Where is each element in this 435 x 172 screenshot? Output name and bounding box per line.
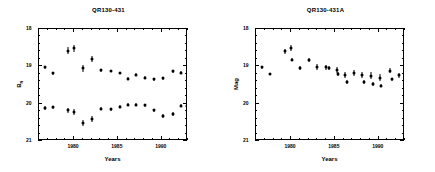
axis-tick [316,28,317,30]
axis-tick [47,138,48,140]
axis-tick [386,28,387,30]
axis-tick [255,95,257,96]
axis-tick [400,28,404,29]
yaxis-base-symbol: B [16,83,22,87]
axis-tick [402,50,404,51]
data-point [44,107,47,110]
axis-tick [334,136,335,140]
axis-tick [343,138,344,140]
axis-tick [255,50,257,51]
axis-tick [402,118,404,119]
data-point [152,109,155,112]
axis-tick [395,138,396,140]
data-point [290,47,293,50]
axis-tick [161,136,162,140]
data-point [127,77,130,80]
axis-tick [402,80,404,81]
axis-tick [38,73,40,74]
axis-tick [91,138,92,140]
axis-tick [360,138,361,140]
axis-tick-label: 18 [26,25,32,31]
data-point [135,103,138,106]
axis-tick [369,138,370,140]
axis-tick [273,28,274,30]
data-point [362,81,365,84]
data-point [81,67,84,70]
data-point [172,70,175,73]
axis-tick [316,138,317,140]
axis-tick [360,28,361,30]
axis-tick [169,28,170,30]
data-point [52,72,55,75]
data-point [179,104,182,107]
axis-tick [378,28,379,32]
axis-tick [185,43,187,44]
axis-tick [402,110,404,111]
data-point [118,72,121,75]
panel-left-plot-area [38,28,187,140]
data-point [378,76,381,79]
axis-tick [99,138,100,140]
axis-tick [73,136,74,140]
axis-tick [185,80,187,81]
data-point [44,66,47,69]
data-point [369,74,372,77]
axis-tick [255,35,257,36]
data-point [161,77,164,80]
data-point [344,73,347,76]
axis-tick [369,28,370,30]
axis-tick [255,58,257,59]
data-point [100,107,103,110]
axis-tick [187,138,188,140]
data-point [390,78,393,81]
axis-tick [82,28,83,30]
axis-tick [185,88,187,89]
axis-tick [38,103,42,104]
axis-tick [255,43,257,44]
axis-tick [64,138,65,140]
data-point [179,71,182,74]
data-point [152,78,155,81]
axis-tick-label: 20 [26,100,32,106]
axis-tick [152,138,153,140]
yaxis-subscript: N [19,80,24,83]
panel-left-title: QR130-431 [0,7,217,13]
axis-tick [255,125,257,126]
data-point [90,117,93,120]
axis-tick [38,88,40,89]
panel-left-yaxis-title: BN [16,72,24,96]
axis-tick [299,138,300,140]
axis-tick [402,58,404,59]
axis-tick [325,28,326,30]
data-point [380,84,383,87]
axis-tick [402,35,404,36]
axis-tick [255,110,257,111]
axis-tick [99,28,100,30]
axis-tick [38,80,40,81]
axis-tick [185,95,187,96]
data-point [261,66,264,69]
axis-tick [56,138,57,140]
data-point [109,69,112,72]
data-point [307,59,310,62]
axis-tick [169,138,170,140]
axis-tick [308,138,309,140]
axis-tick-label: 1985 [328,143,339,149]
yaxis-base-symbol: Mag [233,78,239,90]
axis-tick [108,138,109,140]
axis-tick [64,28,65,30]
axis-tick [56,28,57,30]
axis-tick [402,88,404,89]
panel-right-title: QR130-431A [217,7,434,13]
data-point [371,83,374,86]
data-point [337,72,340,75]
axis-tick [126,28,127,30]
axis-tick [378,136,379,140]
axis-tick-label: 21 [243,137,249,143]
axis-tick [183,103,187,104]
axis-tick [82,138,83,140]
axis-tick [185,58,187,59]
axis-tick [73,28,74,32]
axis-tick [273,138,274,140]
panel-right-xaxis-title: Years [321,156,337,162]
